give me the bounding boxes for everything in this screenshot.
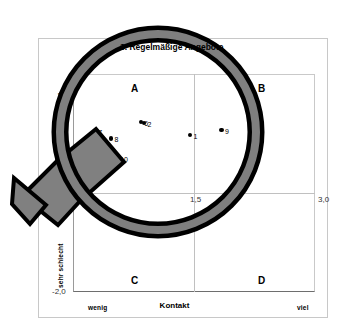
data-point-label: 5 — [83, 150, 87, 157]
y-tick-min: -2,0 — [52, 288, 66, 296]
data-point-label: 8 — [114, 136, 118, 143]
y-axis-high-label: sehr gut — [58, 93, 65, 120]
data-point-label: 4 — [97, 134, 101, 141]
data-point — [77, 150, 82, 155]
quadrant-label-b: B — [258, 84, 265, 94]
quadrant-label-d: D — [258, 276, 265, 286]
data-point-label: 9 — [98, 150, 102, 157]
data-point-label: 6 — [144, 120, 148, 127]
chart-title: 3. Regelmäßige Angebote — [120, 42, 224, 52]
x-tick-max: 3,0 — [318, 196, 329, 204]
quadrant-label-a: A — [131, 84, 138, 94]
x-tick-0: 0 — [70, 196, 74, 204]
x-axis-title: Kontakt — [0, 302, 349, 310]
data-point-label: 9 — [225, 128, 229, 135]
y-axis-low-label: sehr schlecht — [58, 243, 65, 288]
y-axis-title: Eindruck — [52, 169, 59, 198]
data-point — [93, 150, 98, 155]
data-point — [219, 128, 224, 133]
quadrant-divider-horizontal — [73, 193, 315, 194]
x-tick-mid: 1,5 — [190, 196, 201, 204]
quadrant-divider-vertical — [194, 74, 195, 292]
quadrant-label-c: C — [131, 276, 138, 286]
data-point — [114, 156, 119, 161]
data-point-label: 10 — [120, 156, 128, 163]
figure-screenshot: 3. Regelmäßige Angebote A B C D sehr gut… — [0, 0, 349, 336]
data-point — [109, 136, 114, 141]
data-point-label: 1 — [193, 133, 197, 140]
